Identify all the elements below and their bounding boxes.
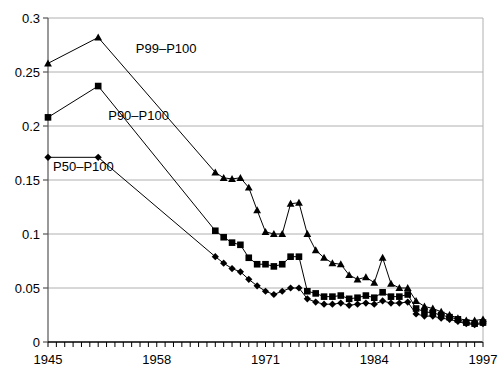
data-point-1-11: [287, 253, 294, 260]
data-point-1-20: [363, 292, 370, 299]
y-tick-label-5: 0.25: [15, 65, 40, 80]
data-point-1-12: [296, 253, 303, 260]
data-point-1-14: [312, 290, 319, 297]
data-point-0-8: [262, 228, 270, 235]
data-point-1-23: [388, 293, 395, 300]
data-point-1-21: [371, 294, 378, 301]
data-point-1-7: [254, 261, 261, 268]
data-point-1-16: [329, 293, 336, 300]
data-point-2-20: [362, 300, 369, 307]
data-point-1-5: [237, 242, 244, 249]
data-point-1-8: [262, 261, 269, 268]
x-tick-label-3: 1984: [360, 352, 389, 367]
data-point-0-16: [329, 259, 337, 266]
data-point-1-22: [379, 289, 386, 296]
data-point-1-13: [304, 288, 311, 295]
data-point-0-20: [362, 273, 370, 280]
series-label-P90-P100: P90–P100: [108, 108, 169, 123]
data-point-2-9: [270, 291, 277, 298]
data-point-0-0: [44, 59, 52, 66]
data-point-0-23: [387, 280, 395, 287]
data-point-1-10: [279, 261, 286, 268]
data-point-2-18: [346, 302, 353, 309]
data-point-1-1: [95, 83, 102, 90]
data-point-2-21: [371, 301, 378, 308]
data-point-2-23: [387, 300, 394, 307]
data-point-1-17: [337, 292, 344, 299]
data-point-2-19: [354, 301, 361, 308]
data-point-0-12: [295, 199, 303, 206]
data-point-1-4: [229, 239, 236, 246]
data-point-1-2: [212, 227, 219, 234]
data-point-0-27: [421, 302, 429, 309]
data-point-2-17: [337, 300, 344, 307]
data-point-1-18: [346, 296, 353, 303]
data-point-2-15: [320, 301, 327, 308]
y-tick-label-2: 0.1: [22, 227, 40, 242]
data-point-2-10: [279, 288, 286, 295]
data-point-1-19: [354, 294, 361, 301]
y-tick-label-0: 0: [33, 335, 40, 350]
data-point-2-22: [379, 297, 386, 304]
series-label-P50-P100: P50–P100: [53, 159, 114, 174]
data-point-2-16: [329, 301, 336, 308]
data-point-2-11: [287, 284, 294, 291]
data-point-0-5: [237, 174, 245, 181]
data-point-2-14: [312, 298, 319, 305]
data-point-1-9: [271, 263, 278, 270]
data-point-0-3: [220, 174, 228, 181]
x-tick-label-1: 1958: [142, 352, 171, 367]
x-tick-label-0: 1945: [34, 352, 63, 367]
y-tick-label-4: 0.2: [22, 119, 40, 134]
series-P99-P100: [44, 34, 487, 324]
line-chart: 00.050.10.150.20.250.3194519581971198419…: [0, 0, 504, 380]
y-tick-label-3: 0.15: [15, 173, 40, 188]
y-tick-label-1: 0.05: [15, 281, 40, 296]
data-point-0-22: [379, 254, 387, 261]
data-point-2-4: [228, 265, 235, 272]
series-line-2: [48, 157, 483, 324]
data-point-1-24: [396, 293, 403, 300]
x-tick-label-4: 1997: [469, 352, 498, 367]
series-label-P99-P100: P99–P100: [136, 41, 197, 56]
data-point-0-14: [312, 246, 320, 253]
data-point-1-0: [45, 114, 52, 121]
series-line-0: [48, 37, 483, 320]
data-point-2-8: [262, 288, 269, 295]
data-point-1-25: [404, 291, 411, 298]
x-tick-label-2: 1971: [251, 352, 280, 367]
data-point-1-6: [245, 254, 252, 261]
data-point-0-1: [94, 34, 102, 41]
data-point-1-15: [321, 293, 328, 300]
data-point-0-21: [370, 279, 378, 286]
y-tick-label-6: 0.3: [22, 11, 40, 26]
data-point-1-3: [220, 234, 227, 241]
data-point-2-0: [44, 154, 51, 161]
data-point-0-7: [253, 206, 261, 213]
data-point-2-24: [396, 300, 403, 307]
chart-container: 00.050.10.150.20.250.3194519581971198419…: [0, 0, 504, 380]
